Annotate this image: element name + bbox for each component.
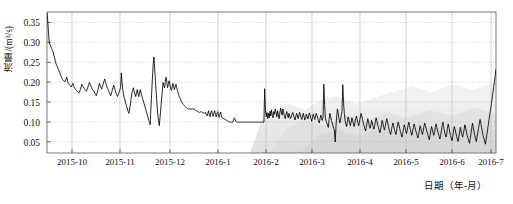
x-tick-label-2016-5: 2016-5 (393, 157, 419, 167)
x-tick-label-2015-10: 2015-10 (57, 157, 87, 167)
x-tick-label-2016-1: 2016-1 (205, 157, 231, 167)
y-tick-label-0.25: 0.25 (8, 58, 40, 68)
x-tick-label-2015-11: 2015-11 (105, 157, 135, 167)
plot-canvas (0, 0, 513, 204)
x-tick-label-2016-7: 2016-7 (478, 157, 504, 167)
x-tick-label-2016-4: 2016-4 (347, 157, 373, 167)
x-axis-title: 日期（年-月） (424, 178, 487, 192)
x-tick-label-2016-2: 2016-2 (253, 157, 279, 167)
x-tick-label-2016-6: 2016-6 (439, 157, 465, 167)
y-tick-label-0.30: 0.30 (8, 38, 40, 48)
y-tick-label-0.15: 0.15 (8, 98, 40, 108)
y-tick-label-0.35: 0.35 (8, 18, 40, 28)
y-tick-label-0.05: 0.05 (8, 138, 40, 148)
y-tick-label-0.20: 0.20 (8, 78, 40, 88)
y-tick-label-0.10: 0.10 (8, 118, 40, 128)
x-tick-label-2016-3: 2016-3 (299, 157, 325, 167)
x-tick-label-2015-12: 2015-12 (155, 157, 185, 167)
watermark-mountains (250, 82, 496, 153)
discharge-time-series-chart: 流量/(m³/s) 日期（年-月） 0.35 0.30 0.25 0.20 0.… (0, 0, 513, 204)
